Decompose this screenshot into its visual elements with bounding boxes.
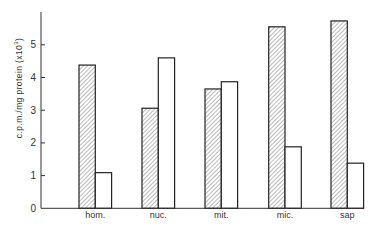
y-axis-label: c.p.m./mg protein (x103) <box>13 38 24 138</box>
bar-chart: hom.nuc.mit.mic.sap012345 c.p.m./mg prot… <box>0 0 385 229</box>
bar-hom-hatched <box>79 65 95 208</box>
x-tick-label: nuc. <box>150 210 167 220</box>
plot-area <box>79 21 364 208</box>
bar-sap-hatched <box>331 21 347 208</box>
y-tick-label: 0 <box>30 203 36 214</box>
bar-nuc-open <box>158 58 174 208</box>
x-tick-label: sap <box>340 210 355 220</box>
bar-mic-open <box>285 147 301 208</box>
y-tick-label: 4 <box>30 72 36 83</box>
y-tick-label: 3 <box>30 105 36 116</box>
bar-mit-open <box>221 82 237 209</box>
bar-mic-hatched <box>269 27 285 208</box>
y-tick-label: 2 <box>30 137 36 148</box>
bar-sap-open <box>347 163 363 208</box>
y-axis-label-main: c.p.m./mg protein (x10 <box>14 45 24 138</box>
bar-hom-open <box>95 173 111 209</box>
y-tick-label: 1 <box>30 170 36 181</box>
bar-mit-hatched <box>205 89 221 208</box>
bar-nuc-hatched <box>142 108 158 208</box>
y-axis-label-suffix: ) <box>14 38 24 41</box>
y-tick-label: 5 <box>30 39 36 50</box>
x-tick-label: mic. <box>277 210 294 220</box>
x-tick-label: hom. <box>85 210 105 220</box>
x-tick-label: mit. <box>214 210 229 220</box>
